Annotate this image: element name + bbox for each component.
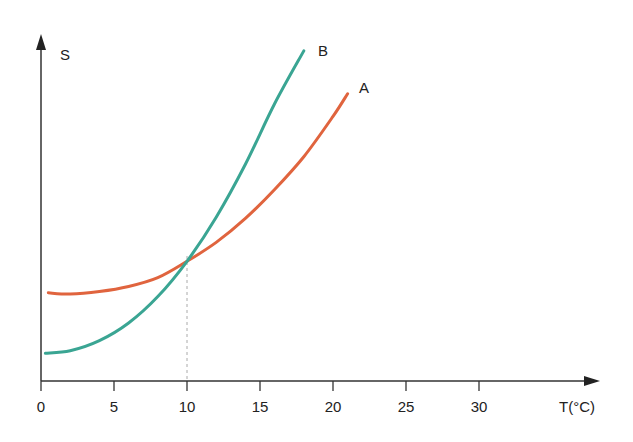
x-tick-label: 30 bbox=[471, 398, 488, 415]
x-axis-label: T(°C) bbox=[559, 398, 595, 415]
curve-b bbox=[45, 51, 303, 353]
curve-a-label: A bbox=[359, 79, 369, 96]
x-tick-label: 20 bbox=[325, 398, 342, 415]
x-tick-label: 15 bbox=[252, 398, 269, 415]
y-axis-arrow-icon bbox=[36, 34, 46, 50]
x-axis-arrow-icon bbox=[584, 376, 600, 386]
y-axis-label: S bbox=[60, 46, 70, 63]
curve-a bbox=[48, 94, 347, 294]
x-tick-label: 5 bbox=[110, 398, 118, 415]
curve-b-label: B bbox=[318, 42, 328, 59]
x-tick-label: 10 bbox=[179, 398, 196, 415]
chart-canvas bbox=[0, 0, 633, 442]
x-tick-label: 0 bbox=[37, 398, 45, 415]
x-tick-label: 25 bbox=[398, 398, 415, 415]
x-ticks bbox=[41, 381, 479, 391]
